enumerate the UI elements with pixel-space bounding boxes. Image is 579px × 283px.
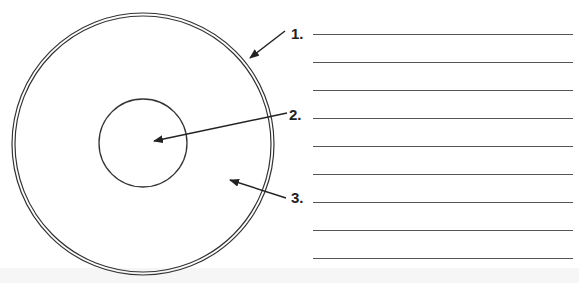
answer-line-6[interactable] [313, 174, 573, 175]
answer-line-9[interactable] [313, 258, 573, 259]
answer-line-4[interactable] [313, 118, 573, 119]
answer-line-5[interactable] [313, 146, 573, 147]
answer-line-8[interactable] [313, 230, 573, 231]
inner-circle-nucleus [99, 99, 187, 187]
answer-line-2[interactable] [313, 62, 573, 63]
callout-number-2: 2. [289, 107, 302, 122]
answer-line-1[interactable] [313, 34, 573, 35]
diagram-canvas [0, 0, 579, 283]
callout-arrow-2 [154, 113, 287, 141]
callout-arrow-3 [230, 180, 286, 198]
answer-line-7[interactable] [313, 202, 573, 203]
cell-diagram-worksheet: 1.2.3. [0, 0, 579, 283]
callout-arrow-1 [250, 31, 285, 58]
callout-number-3: 3. [291, 190, 304, 205]
answer-line-3[interactable] [313, 90, 573, 91]
callout-number-1: 1. [291, 26, 304, 41]
outer-circle-membrane [12, 13, 274, 275]
